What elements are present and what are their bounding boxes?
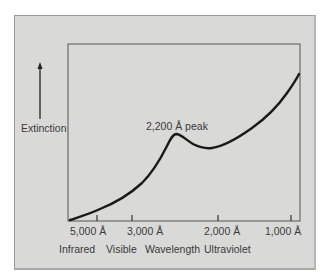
region-label-infrared: Infrared (59, 244, 95, 255)
tick-label-1000: 1,000 Å (265, 226, 301, 237)
tick-label-5000: 5,000 Å (70, 226, 106, 237)
tick-label-3000: 3,000 Å (127, 226, 163, 237)
extinction-curve (70, 74, 299, 220)
y-axis-label: Extinction (21, 123, 67, 134)
plot-frame (68, 44, 300, 221)
extinction-chart (0, 0, 328, 280)
up-arrow-icon (38, 62, 43, 119)
x-axis-ticks (97, 215, 291, 221)
region-label-ultraviolet: Ultraviolet (204, 244, 251, 255)
x-axis-label: Wavelength (145, 244, 200, 255)
region-label-visible: Visible (106, 244, 137, 255)
tick-label-2000: 2,000 Å (204, 226, 240, 237)
peak-annotation: 2,200 Å peak (146, 121, 208, 132)
